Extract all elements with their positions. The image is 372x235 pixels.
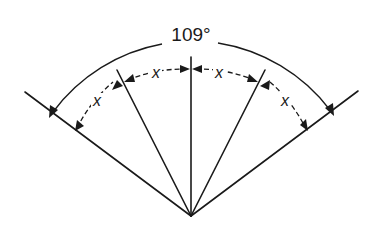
segment-2-arrowhead-start [124,74,135,82]
total-angle-arc-left [53,44,162,112]
segment-3-arrowhead-end [247,74,258,82]
segment-4-arrowhead-start [260,80,270,90]
inner-left-ray [117,70,191,216]
segment-label-3: x [214,64,224,81]
inner-right-ray [191,70,265,216]
svg-text:109°: 109° [171,24,210,45]
total-angle-arc-right [218,43,330,110]
segment-2-arrowhead-end [180,65,190,73]
total-angle-label: 109° [171,24,210,45]
segment-label-2: x [151,64,161,81]
segment-3-arrowhead-start [192,65,202,73]
segment-1-arrowhead-end [112,80,123,90]
segment-label-4: x [280,92,290,109]
bond-angle-diagram: 109° x x x x [0,0,372,235]
segment-label-1: x [92,92,102,109]
segment-1-arrowhead-start [75,120,84,131]
